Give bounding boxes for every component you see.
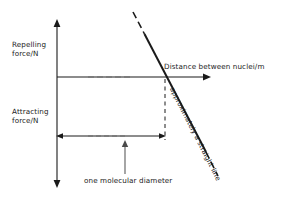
y-axis-attracting-line2: force/N — [12, 116, 49, 125]
molecular-diameter-caption: one molecular diameter — [84, 176, 172, 185]
diameter-pointer-arrowhead — [122, 140, 128, 147]
y-axis-up-arrowhead — [54, 19, 61, 27]
y-axis-down-arrowhead — [54, 180, 61, 188]
force-line-dashed-top — [133, 12, 145, 34]
x-axis-right-arrowhead — [203, 74, 211, 81]
y-axis-repelling-line2: force/N — [12, 49, 46, 58]
y-axis-attracting-label: Attracting force/N — [12, 107, 49, 125]
x-axis-label: Distance between nuclei/m — [164, 62, 264, 71]
y-axis-repelling-label: Repelling force/N — [12, 40, 46, 58]
y-axis-attracting-line1: Attracting — [12, 107, 49, 116]
y-axis-repelling-line1: Repelling — [12, 40, 46, 49]
force-vs-distance-diagram: Repelling force/N Attracting force/N Dis… — [0, 0, 284, 207]
